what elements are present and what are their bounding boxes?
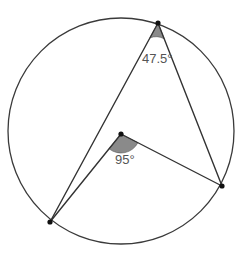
- point-center: [118, 131, 123, 136]
- point-bottom-left: [47, 219, 52, 224]
- central-angle-label: 95°: [115, 152, 135, 167]
- radius-to-right: [121, 134, 222, 186]
- diagram-canvas: 47.5° 95°: [0, 0, 246, 256]
- point-top: [155, 20, 160, 25]
- radius-to-bottom-left: [50, 134, 121, 222]
- point-right: [219, 183, 224, 188]
- chord-top-to-right: [158, 23, 222, 186]
- inscribed-angle-label: 47.5°: [142, 51, 173, 66]
- circle-theorem-diagram: 47.5° 95°: [0, 0, 246, 256]
